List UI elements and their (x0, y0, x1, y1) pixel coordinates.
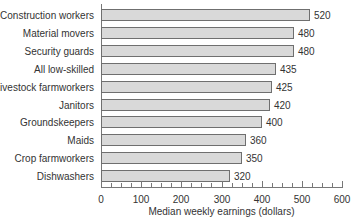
minor-tick (111, 183, 112, 187)
minor-tick (171, 183, 172, 187)
value-label: 320 (234, 170, 251, 183)
major-tick (302, 181, 303, 187)
bar (101, 116, 262, 128)
category-label: All low-skilled (34, 63, 94, 76)
minor-tick (211, 183, 212, 187)
bar (101, 45, 294, 57)
bar (101, 81, 272, 93)
minor-tick (322, 183, 323, 187)
major-tick (222, 181, 223, 187)
minor-tick (151, 183, 152, 187)
category-label: Material movers (23, 27, 94, 40)
value-label: 400 (266, 116, 283, 129)
bar (101, 9, 310, 21)
bar (101, 134, 246, 146)
category-label: Construction workers (0, 9, 94, 22)
value-label: 350 (246, 152, 263, 165)
x-tick-label: 300 (214, 194, 231, 205)
x-tick-label: 400 (254, 194, 271, 205)
major-tick (342, 181, 343, 187)
x-tick-label: 200 (173, 194, 190, 205)
category-label: Livestock farmworkers (0, 81, 94, 94)
value-label: 360 (250, 134, 267, 147)
minor-tick (121, 183, 122, 187)
value-label: 520 (314, 9, 331, 22)
value-label: 480 (298, 27, 315, 40)
minor-tick (332, 183, 333, 187)
minor-tick (191, 183, 192, 187)
value-label: 435 (280, 63, 297, 76)
value-label: 480 (298, 45, 315, 58)
major-tick (262, 181, 263, 187)
x-tick-label: 0 (98, 194, 104, 205)
category-label: Crop farmworkers (15, 152, 94, 165)
x-tick-label: 100 (133, 194, 150, 205)
category-label: Maids (67, 134, 94, 147)
category-label: Dishwashers (37, 170, 94, 183)
minor-tick (312, 183, 313, 187)
category-label: Groundskeepers (20, 116, 94, 129)
minor-tick (252, 183, 253, 187)
bar (101, 152, 242, 164)
value-label: 425 (276, 81, 293, 94)
category-label: Janitors (59, 99, 94, 112)
horizontal-bar-chart: 0100200300400500600 Median weekly earnin… (0, 0, 352, 219)
value-label: 420 (274, 99, 291, 112)
major-tick (181, 181, 182, 187)
minor-tick (161, 183, 162, 187)
bar (101, 99, 270, 111)
category-label: Security guards (25, 45, 94, 58)
minor-tick (282, 183, 283, 187)
x-tick-label: 600 (334, 194, 351, 205)
major-tick (101, 181, 102, 187)
minor-tick (292, 183, 293, 187)
bar (101, 170, 230, 182)
minor-tick (272, 183, 273, 187)
minor-tick (131, 183, 132, 187)
minor-tick (242, 183, 243, 187)
x-axis-title: Median weekly earnings (dollars) (101, 206, 342, 217)
bar (101, 27, 294, 39)
minor-tick (232, 183, 233, 187)
x-tick-label: 500 (294, 194, 311, 205)
minor-tick (201, 183, 202, 187)
major-tick (141, 181, 142, 187)
x-axis-line (101, 187, 343, 188)
bar (101, 63, 276, 75)
